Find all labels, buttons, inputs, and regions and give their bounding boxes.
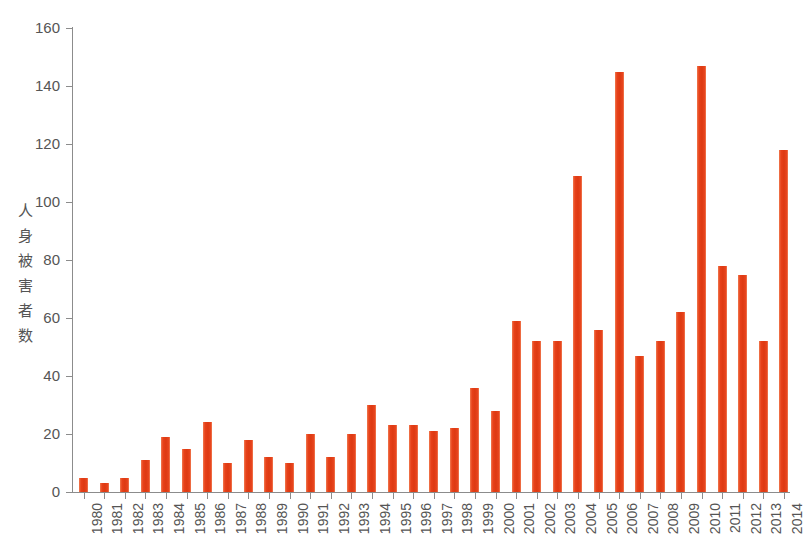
x-tick-label-2002: 2002 (543, 503, 557, 534)
x-tick-label-2012: 2012 (749, 503, 763, 534)
x-tick-label-2011: 2011 (728, 503, 742, 533)
x-tick-label-2005: 2005 (605, 503, 619, 534)
x-tick-label-2010: 2010 (708, 503, 722, 534)
x-tick-label-2007: 2007 (646, 503, 660, 534)
x-tick-label-1998: 1998 (460, 503, 474, 534)
x-tick-label-1986: 1986 (213, 503, 227, 534)
x-tick-label-1990: 1990 (296, 503, 310, 534)
x-tick-label-2003: 2003 (563, 503, 577, 534)
x-tick-label-2009: 2009 (687, 503, 701, 534)
x-tick-label-2008: 2008 (666, 503, 680, 534)
x-tick-label-2014: 2014 (790, 503, 804, 534)
x-tick-label-1985: 1985 (193, 503, 207, 534)
x-tick-label-1994: 1994 (378, 503, 392, 534)
x-tick-label-2004: 2004 (584, 503, 598, 534)
x-tick-label-1984: 1984 (172, 503, 186, 534)
x-tick-label-1992: 1992 (337, 503, 351, 534)
x-tick-label-2000: 2000 (502, 503, 516, 534)
x-tick-label-2001: 2001 (522, 503, 536, 534)
x-tick-label-1993: 1993 (357, 503, 371, 534)
x-tick-label-1981: 1981 (110, 503, 124, 534)
x-tick-label-1995: 1995 (399, 503, 413, 534)
x-tick-label-2006: 2006 (625, 503, 639, 534)
x-tick-label-2013: 2013 (769, 503, 783, 534)
x-tick-label-1996: 1996 (419, 503, 433, 534)
x-tick-label-1982: 1982 (131, 503, 145, 534)
x-tick-label-1989: 1989 (275, 503, 289, 534)
x-tick-label-1988: 1988 (254, 503, 268, 534)
x-tick-label-1983: 1983 (151, 503, 165, 534)
x-tick-label-1987: 1987 (234, 503, 248, 534)
x-tick-label-1999: 1999 (481, 503, 495, 534)
x-tick-label-1997: 1997 (440, 503, 454, 534)
x-tick-label-1980: 1980 (90, 503, 104, 534)
x-tick-label-1991: 1991 (316, 503, 330, 534)
